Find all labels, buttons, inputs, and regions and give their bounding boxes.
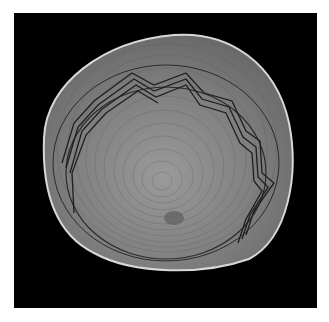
basket-illustration xyxy=(14,13,317,308)
basket-photo xyxy=(14,13,317,308)
basket-body xyxy=(44,35,293,271)
